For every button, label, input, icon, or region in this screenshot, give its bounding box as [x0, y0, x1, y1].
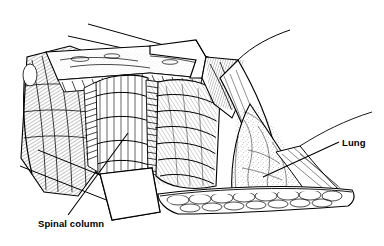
label-lung: Lung: [342, 138, 366, 148]
surgical-illustration: [0, 0, 384, 246]
illustration-canvas: Spinal column Lung: [0, 0, 384, 246]
tissue-roll: [23, 64, 37, 86]
label-spinal-column: Spinal column: [38, 219, 104, 229]
